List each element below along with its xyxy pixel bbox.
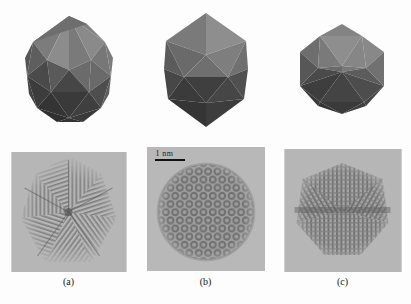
panel-caption-a: (a): [0, 276, 137, 287]
model-row: [0, 0, 411, 140]
hrtem-twofold-fringe-image: [284, 149, 401, 272]
hrtem-fivefold-star-image: [11, 152, 126, 272]
micrograph-panel-a: [0, 146, 137, 274]
panel-caption-c: (c): [274, 276, 411, 287]
micrograph-image-a: [11, 152, 126, 272]
model-panel-a: [0, 0, 137, 140]
scale-bar-line: [155, 159, 185, 161]
model-panel-c: [274, 0, 411, 140]
scale-bar-label: 1 nm: [155, 149, 185, 158]
figure-container: 1 nm: [0, 0, 411, 304]
icosahedron-twofold-icon: [290, 14, 396, 126]
micrograph-image-b: 1 nm: [147, 147, 265, 271]
micrograph-panel-b: 1 nm: [137, 146, 274, 274]
caption-row: (a) (b) (c): [0, 276, 411, 298]
hrtem-ring-lattice-image: [147, 147, 265, 271]
micrograph-panel-c: [274, 146, 411, 274]
scale-bar: 1 nm: [155, 149, 185, 161]
micrograph-image-c: [284, 149, 401, 272]
icosahedron-threefold-icon: [154, 7, 258, 133]
micrograph-row: 1 nm: [0, 146, 411, 274]
panel-caption-b: (b): [137, 276, 274, 287]
model-panel-b: [137, 0, 274, 140]
icosahedron-fivefold-icon: [13, 8, 125, 132]
